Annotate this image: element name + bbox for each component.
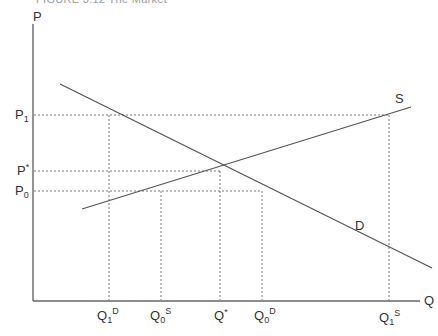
p1-label: P1 (15, 107, 29, 124)
q0s-label: Q0S (150, 306, 171, 325)
demand-label: D (355, 218, 364, 233)
q0d-label: Q0D (254, 306, 276, 325)
supply-label: S (395, 91, 404, 106)
q1s-label: Q1S (379, 308, 400, 327)
pstar-label: P* (17, 162, 30, 178)
p0-label: P0 (15, 183, 29, 200)
q1d-label: Q1D (97, 306, 119, 325)
y-axis-label: P (33, 9, 42, 24)
qstar-label: Q* (214, 307, 228, 323)
x-axis-label: Q (424, 293, 434, 308)
market-diagram: P Q S D P1 P* P0 Q1D Q0S Q* Q0D Q1S (0, 0, 438, 336)
supply-curve (82, 107, 411, 209)
demand-curve (60, 84, 432, 268)
